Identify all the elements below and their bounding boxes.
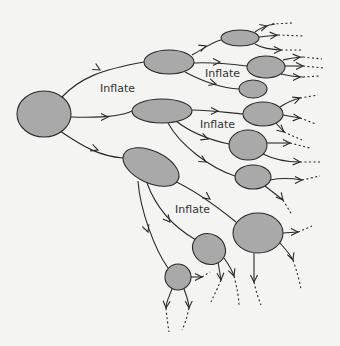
- universe-bubble-n-mid-right-2: [229, 130, 267, 160]
- universe-bubble-n-mid-right-1: [243, 102, 283, 126]
- inflate-label-4: Inflate: [175, 203, 210, 216]
- universe-bubble-n-mid-right-3: [235, 165, 271, 189]
- universe-bubble-n-middle: [132, 99, 192, 123]
- universe-bubble-n-upper-right: [247, 56, 285, 78]
- inflate-label-2: Inflate: [205, 67, 240, 80]
- universe-bubble-root: [17, 91, 71, 137]
- universe-bubble-n-small-right: [239, 80, 267, 98]
- universe-bubble-n-big-right: [233, 213, 283, 253]
- universe-bubble-n-small-bottom: [165, 264, 191, 290]
- universe-bubble-n-upper: [144, 50, 194, 74]
- inflate-label-3: Inflate: [200, 118, 235, 131]
- universe-bubble-n-top-right: [221, 30, 259, 46]
- inflation-tree-diagram: Inflate Inflate Inflate Inflate: [0, 0, 340, 346]
- inflate-label-1: Inflate: [100, 82, 135, 95]
